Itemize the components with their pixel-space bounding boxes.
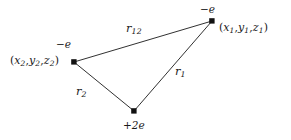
coordinate-label-electron-1: (x1,y1,z1) [219, 22, 268, 35]
edge-label-r2: r2 [76, 86, 87, 99]
edge-label-r12-sub: 12 [132, 27, 143, 36]
vertex-dot-nucleus [131, 108, 136, 113]
edge-line-r1 [134, 21, 212, 111]
edge-line-r12 [74, 21, 212, 62]
charge-value-electron-2: e [65, 38, 71, 50]
charge-label-electron-1: −e [200, 4, 215, 15]
charge-value-electron-1: e [209, 3, 215, 15]
charge-value-nucleus: 2e [132, 119, 145, 131]
vertex-dots [71, 18, 214, 113]
paren-close-2: ) [55, 54, 59, 67]
vertex-dot-electron-1 [209, 18, 214, 23]
edge-label-r1: r1 [175, 66, 186, 79]
edge-label-r1-sub: 1 [181, 70, 186, 79]
edge-label-r12: r12 [126, 23, 142, 36]
charge-sign-electron-1: − [200, 3, 209, 15]
figure-canvas: −e (x1,y1,z1) −e (x2,y2,z2) +2e r12 r1 r… [0, 0, 291, 140]
diagram-svg [0, 0, 291, 140]
edge-label-r2-sub: 2 [82, 90, 87, 99]
vertex-dot-electron-2 [71, 59, 76, 64]
paren-close-1: ) [264, 21, 268, 34]
charge-label-electron-2: −e [56, 39, 71, 50]
charge-sign-nucleus: + [123, 119, 132, 131]
charge-sign-electron-2: − [56, 38, 65, 50]
edge-lines [74, 21, 212, 111]
charge-label-nucleus: +2e [123, 120, 145, 131]
coordinate-label-electron-2: (x2,y2,z2) [10, 55, 59, 68]
